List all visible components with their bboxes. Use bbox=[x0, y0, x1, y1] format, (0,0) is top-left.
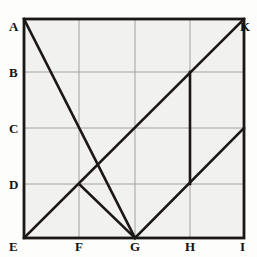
vertex-label-F: F bbox=[75, 240, 83, 253]
vertex-label-D: D bbox=[9, 178, 18, 191]
vertex-label-B: B bbox=[9, 66, 18, 79]
vertex-label-G: G bbox=[130, 240, 140, 253]
vertex-label-I: I bbox=[240, 240, 245, 253]
vertex-label-E: E bbox=[9, 240, 18, 253]
vertex-label-K: K bbox=[240, 20, 250, 33]
vertex-label-H: H bbox=[185, 240, 195, 253]
vertex-label-A: A bbox=[9, 20, 18, 33]
vertex-label-C: C bbox=[9, 122, 18, 135]
geometric-figure: A B C D E F G H I K bbox=[0, 0, 257, 257]
figure-canvas bbox=[0, 0, 257, 257]
